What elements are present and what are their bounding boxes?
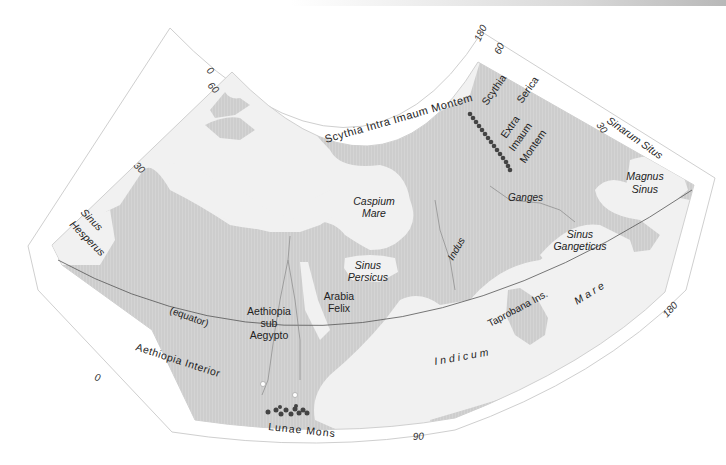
label-sub: sub	[261, 317, 278, 329]
ptolemy-world-map: 0 60 30 0 90 180 60 30 180 Scythia Intra…	[0, 0, 726, 465]
label-arabia: Arabia	[324, 290, 355, 302]
label-caspium-mare: Mare	[362, 207, 386, 219]
label-caspium: Caspium	[353, 195, 395, 207]
label-sinus-gangeticus-2: Gangeticus	[553, 240, 607, 252]
label-aegypto: Aegypto	[250, 329, 289, 341]
label-ganges: Ganges	[508, 192, 543, 203]
label-magnus-sinus: Sinus	[632, 183, 659, 195]
label-sinus-gangeticus-1: Sinus	[567, 228, 594, 240]
label-magnus: Magnus	[626, 170, 664, 182]
lon-90-bottom: 90	[413, 430, 425, 442]
label-arabia-felix: Felix	[328, 302, 351, 314]
lon-0-bottom: 0	[93, 371, 102, 383]
label-sinus-persicus-1: Sinus	[355, 259, 382, 271]
label-sinus-persicus-2: Persicus	[348, 271, 389, 283]
label-aethiopia-sub: Aethiopia	[247, 305, 291, 317]
